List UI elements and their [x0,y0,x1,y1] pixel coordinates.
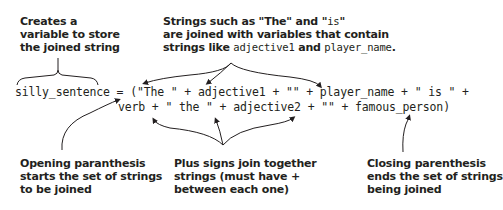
arrow-to-plus-1 [154,120,223,145]
annotation-line: to be joined [20,183,162,196]
arrow-to-adjective1 [208,63,231,83]
annotation-line: Plus signs join together [174,157,317,170]
annotation-line: between each one) [174,183,317,196]
code-line-2: verb + " the " + adjective2 + "" + famou… [118,100,450,114]
arrow-to-closing-parenthesis [403,117,409,152]
annotation-text: and [295,41,325,54]
arrow-to-player-name [231,63,320,86]
annotation-line: are joined with variables that contain [163,28,396,41]
annotation-line: Creates a [20,15,120,28]
annotation-line: Closing parenthesis [367,157,503,170]
annotation-line: the joined string [20,41,120,54]
arrow-to-plus-2 [216,120,223,145]
annotation-strings-joined: Strings such as "The" and "is" are joine… [163,15,396,54]
arrow-to-plus-3 [223,118,293,145]
annotation-opening-parenthesis: Opening paranthesis starts the set of st… [20,157,162,196]
annotation-text: . [392,41,396,54]
annotation-line: ends the set of strings [367,170,503,183]
annotation-line: strings like adjective1 and player_name. [163,41,396,54]
code-term-player-name: player_name [324,41,391,53]
arrow-to-the-string [145,63,231,83]
annotation-line: Opening paranthesis [20,157,162,170]
annotation-line: starts the set of strings [20,170,162,183]
annotation-text: " [339,15,345,28]
curly-brace-icon [17,58,98,85]
annotation-line: variable to store [20,28,120,41]
annotation-line: Strings such as "The" and "is" [163,15,396,28]
code-line-1: silly_sentence = ("The " + adjective1 + … [15,85,469,99]
annotation-closing-parenthesis: Closing parenthesis ends the set of stri… [367,157,503,196]
annotation-plus-signs: Plus signs join together strings (must h… [174,157,317,196]
annotation-line: being joined [367,183,503,196]
code-term-adjective1: adjective1 [233,41,294,53]
annotation-creates-variable: Creates a variable to store the joined s… [20,15,120,54]
code-term-is: is [327,15,339,27]
arrow-to-opening-parenthesis [62,100,118,150]
annotation-text: strings like [163,41,233,54]
annotation-text: Strings such as "The" and " [163,15,327,28]
annotation-line: strings (must have + [174,170,317,183]
